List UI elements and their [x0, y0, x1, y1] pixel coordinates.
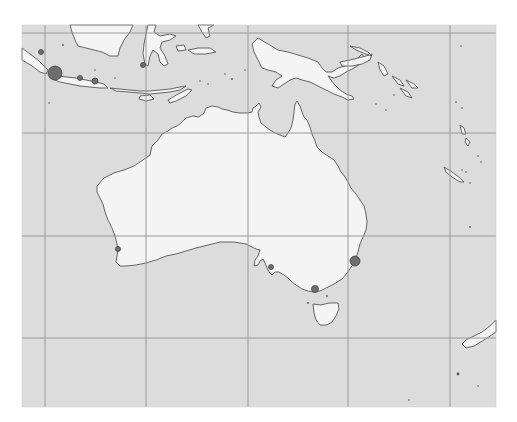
marker-sumatra-south[interactable]	[39, 50, 44, 55]
marker-sulawesi[interactable]	[141, 63, 146, 68]
landmass-seram	[188, 48, 216, 54]
marker-melbourne[interactable]	[312, 286, 319, 293]
marker-bandung[interactable]	[78, 76, 83, 81]
marker-semarang[interactable]	[92, 78, 98, 84]
marker-perth[interactable]	[116, 247, 121, 252]
landmass-buru	[176, 45, 186, 51]
marker-sydney[interactable]	[350, 256, 360, 266]
map-canvas[interactable]	[0, 0, 517, 422]
marker-jakarta[interactable]	[48, 66, 62, 80]
marker-adelaide[interactable]	[269, 265, 274, 270]
